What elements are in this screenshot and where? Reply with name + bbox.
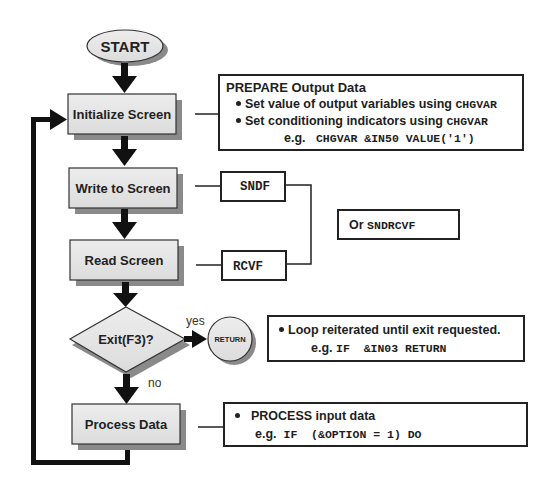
note-loop-bullet: Loop reiterated until exit requested. — [279, 323, 501, 337]
bullet-icon — [279, 327, 284, 332]
note-loop-example: e.g. IF &IN03 RETURN — [311, 341, 446, 355]
note-process-bullet: PROCESS input data — [235, 409, 375, 423]
note-sndf: SNDF — [220, 171, 286, 202]
note-sndf-label: SNDF — [240, 180, 270, 194]
arrow-no-to-process — [114, 374, 139, 404]
decision-no-label: no — [148, 376, 161, 390]
note-rcvf-label: RCVF — [233, 260, 263, 274]
note-prepare-bullet-2: Set conditioning indicators using CHGVAR — [236, 114, 488, 128]
note-sndrcvf: Or SNDRCVF — [337, 209, 460, 240]
decision-label: Exit(F3)? — [80, 326, 172, 352]
decision-yes-label: yes — [186, 314, 205, 328]
note-prepare-title: PREPARE Output Data — [226, 80, 366, 95]
arrow-init-to-write — [112, 136, 137, 166]
step-process-label: Process Data — [72, 404, 180, 444]
start-label: START — [87, 32, 163, 60]
note-prepare-bullet-1: Set value of output variables using CHGV… — [236, 97, 497, 111]
bullet-icon — [236, 101, 241, 106]
step-read-label: Read Screen — [70, 240, 178, 280]
bullet-icon — [235, 413, 240, 418]
note-loop: Loop reiterated until exit requested. e.… — [267, 315, 525, 362]
arrow-start-to-init — [112, 63, 137, 93]
bullet-icon — [236, 118, 241, 123]
return-label: RETURN — [208, 331, 252, 347]
step-initialize-label: Initialize Screen — [68, 94, 176, 134]
note-process-example: e.g. IF (&OPTION = 1) DO — [255, 427, 422, 441]
note-process: PROCESS input data e.g. IF (&OPTION = 1)… — [223, 402, 528, 447]
note-prepare-example: e.g. CHGVAR &IN50 VALUE('1') — [284, 131, 475, 145]
note-sndrcvf-text: Or SNDRCVF — [349, 218, 415, 232]
step-write-label: Write to Screen — [69, 168, 177, 208]
note-prepare-output: PREPARE Output Data Set value of output … — [218, 74, 524, 151]
note-rcvf: RCVF — [221, 250, 287, 281]
